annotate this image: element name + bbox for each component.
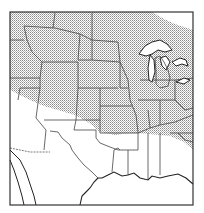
range-map	[0, 0, 204, 213]
